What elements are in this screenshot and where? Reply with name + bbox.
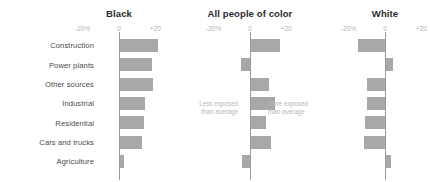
bar <box>251 39 280 52</box>
bar <box>365 116 385 129</box>
x-tick-label: +20 <box>266 25 306 32</box>
category-label: Agriculture <box>8 157 94 166</box>
bar <box>251 116 266 129</box>
x-tick-label: 0 <box>99 25 139 32</box>
x-tick-label: -20% <box>63 25 103 32</box>
x-tick-label: +20 <box>401 25 430 32</box>
bar <box>251 78 269 91</box>
x-tick-label: +20 <box>135 25 175 32</box>
annotation-more-exposed-line1: More exposed <box>268 100 324 108</box>
annotation-less-exposed-line2: than average <box>186 108 238 116</box>
x-tick-label: 0 <box>365 25 405 32</box>
bar <box>120 155 124 168</box>
bar <box>364 136 385 149</box>
bar <box>120 78 153 91</box>
category-label: Residential <box>8 119 94 128</box>
bar <box>386 155 391 168</box>
annotation-less-exposed: Less exposed than average <box>186 100 238 116</box>
category-label: Cars and trucks <box>8 138 94 147</box>
x-tick-label: 0 <box>230 25 270 32</box>
category-label: Construction <box>8 41 94 50</box>
bar <box>367 97 385 110</box>
panel-title: All people of color <box>180 8 320 19</box>
category-label: Power plants <box>8 61 94 70</box>
bar <box>367 78 385 91</box>
x-tick-label: -20% <box>329 25 369 32</box>
panel-title: White <box>315 8 430 19</box>
bar <box>251 136 271 149</box>
bar <box>120 116 144 129</box>
bar <box>386 58 393 71</box>
category-label: Other sources <box>8 80 94 89</box>
bar <box>120 58 152 71</box>
category-label: Industrial <box>8 99 94 108</box>
bar <box>120 39 158 52</box>
chart-figure: ConstructionPower plantsOther sourcesInd… <box>0 0 430 182</box>
panel-title: Black <box>49 8 189 19</box>
annotation-less-exposed-line1: Less exposed <box>186 100 238 108</box>
bar <box>242 155 250 168</box>
annotation-more-exposed-line2: than average <box>268 108 324 116</box>
bar <box>241 58 250 71</box>
bar <box>120 136 142 149</box>
annotation-more-exposed: More exposed than average <box>268 100 324 116</box>
bar <box>120 97 145 110</box>
x-tick-label: -20% <box>194 25 234 32</box>
bar <box>358 39 385 52</box>
